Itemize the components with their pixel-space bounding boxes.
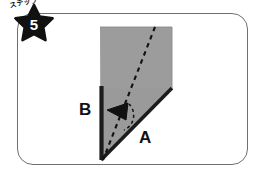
paper-upper-panel <box>100 27 172 88</box>
label-a: A <box>139 129 151 146</box>
step-illustration-card: B A 5 ステップ <box>0 0 258 179</box>
label-b: B <box>79 101 91 118</box>
step-badge: 5 ステップ <box>8 1 56 43</box>
